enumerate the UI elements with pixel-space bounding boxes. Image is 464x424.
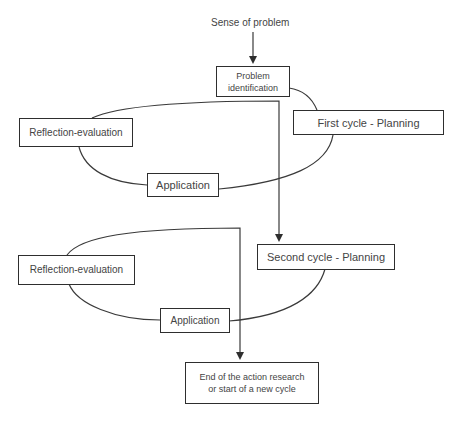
arc-application-to-reflection [79, 147, 147, 185]
arc-application2-to-reflection2 [69, 284, 160, 320]
arc-problem-to-first-cycle [289, 88, 317, 110]
reflection-evaluation-box-1: Reflection-evaluation [19, 118, 133, 147]
application-box-2: Application [160, 308, 230, 333]
arc-reflection2-to-end [67, 228, 240, 356]
end-or-new-cycle-box: End of the action research or start of a… [185, 362, 319, 404]
arc-first-cycle-to-application [219, 135, 333, 189]
second-cycle-planning-box: Second cycle - Planning [257, 244, 395, 270]
first-cycle-planning-box: First cycle - Planning [293, 110, 444, 135]
arc-second-cycle-to-application [229, 269, 325, 321]
problem-identification-box: Problem identification [216, 66, 290, 97]
connector-lines [0, 0, 464, 424]
application-box-1: Application [147, 173, 219, 197]
reflection-evaluation-box-2: Reflection-evaluation [18, 255, 135, 285]
sense-of-problem-label: Sense of problem [211, 17, 289, 28]
